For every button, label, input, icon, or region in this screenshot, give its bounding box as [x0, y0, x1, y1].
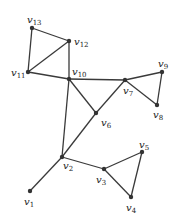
node-v12 [67, 39, 71, 43]
labels: v1v2v3v4v5v6v7v8v9v10v11v12v13 [11, 14, 168, 215]
edge-v11-v12 [28, 41, 69, 72]
label-v12: v12 [74, 36, 89, 49]
edge-v3-v5 [104, 152, 142, 169]
label-v9: v9 [158, 58, 168, 71]
node-v11 [26, 70, 30, 74]
node-v6 [94, 111, 98, 115]
label-v1: v1 [24, 196, 34, 209]
edge-v7-v6 [96, 80, 125, 113]
label-v4: v4 [126, 202, 137, 215]
label-v11: v11 [11, 67, 26, 80]
node-v3 [102, 167, 106, 171]
edge-v13-v11 [28, 28, 32, 72]
node-v8 [155, 103, 159, 107]
node-v2 [60, 155, 64, 159]
edge-v11-v10 [28, 72, 69, 79]
label-v5: v5 [139, 139, 149, 152]
graph-diagram: v1v2v3v4v5v6v7v8v9v10v11v12v13 [0, 0, 172, 218]
label-v3: v3 [96, 174, 106, 187]
label-v7: v7 [123, 85, 133, 98]
edge-v10-v7 [69, 79, 125, 80]
label-v2: v2 [63, 160, 73, 173]
edge-v10-v6 [69, 79, 96, 113]
edge-v3-v4 [104, 169, 131, 197]
edge-v9-v8 [157, 72, 162, 105]
edge-v5-v4 [131, 152, 142, 197]
node-v1 [28, 189, 32, 193]
label-v10: v10 [72, 66, 87, 79]
label-v13: v13 [27, 14, 42, 27]
node-v4 [129, 195, 133, 199]
node-v7 [123, 78, 127, 82]
edge-v7-v9 [125, 72, 162, 80]
edge-v2-v1 [30, 157, 62, 191]
edge-v10-v2 [62, 79, 69, 157]
edge-v6-v2 [62, 113, 96, 157]
node-v10 [67, 77, 71, 81]
label-v8: v8 [153, 109, 163, 122]
node-v5 [140, 150, 144, 154]
label-v6: v6 [101, 117, 112, 130]
edge-v13-v12 [32, 28, 69, 41]
